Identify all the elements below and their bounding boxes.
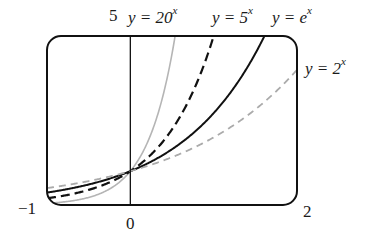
label-y-20x: y = 20x (128, 7, 177, 26)
y-max-tick-label: 5 (109, 7, 118, 24)
curve-y-e-x (47, 0, 287, 193)
x-min-tick-label: −1 (18, 200, 36, 217)
curves-group (47, 0, 297, 203)
viewing-window-frame (47, 36, 297, 205)
label-y-5x: y = 5x (212, 7, 253, 26)
label-y-2x: y = 2x (305, 58, 346, 77)
x-zero-tick-label: 0 (126, 215, 135, 232)
chart-plot-area (0, 0, 384, 237)
curve-y-20-x (47, 0, 183, 203)
x-max-tick-label: 2 (303, 203, 312, 220)
label-y-ex: y = ex (272, 7, 312, 26)
